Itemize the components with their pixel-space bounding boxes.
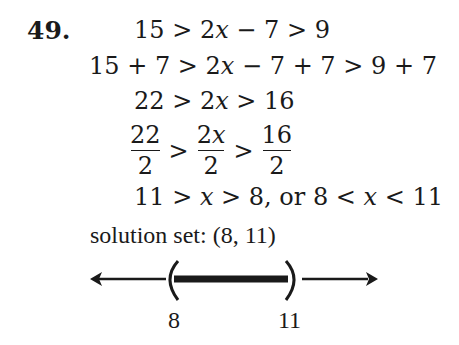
tick-label-11: 11: [278, 306, 301, 334]
tick-label-8: 8: [168, 306, 180, 334]
number-line: [0, 0, 459, 345]
